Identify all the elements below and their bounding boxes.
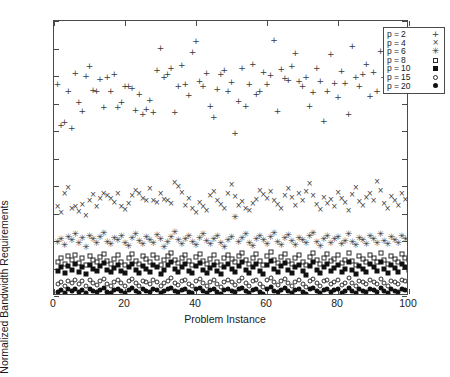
data-point-cross: ×	[306, 180, 313, 188]
data-point-open-circle	[350, 281, 355, 286]
data-point-cross: ×	[356, 198, 363, 206]
data-point-star: ✳	[121, 239, 129, 248]
data-point-filled-square	[392, 265, 397, 270]
data-point-open-circle	[204, 283, 209, 288]
data-point-star: ✳	[277, 241, 285, 250]
data-point-open-circle	[339, 283, 344, 288]
data-point-cross: ×	[93, 203, 100, 211]
data-point-plus: +	[366, 91, 374, 100]
data-point-star: ✳	[174, 236, 182, 245]
data-point-filled-square	[268, 259, 273, 264]
data-point-filled-square	[69, 267, 74, 272]
data-point-filled-circle	[94, 290, 99, 294]
data-point-open-circle	[112, 279, 117, 284]
data-point-open-square	[140, 254, 145, 259]
data-point-filled-square	[364, 269, 369, 274]
data-point-open-circle	[147, 282, 152, 287]
data-point-star: ✳	[203, 237, 211, 246]
data-point-plus: +	[363, 59, 371, 68]
data-point-cross: ×	[115, 190, 122, 198]
data-point-plus: +	[72, 69, 80, 78]
data-point-filled-circle	[286, 289, 291, 294]
data-point-filled-circle	[133, 288, 138, 293]
data-point-filled-square	[133, 268, 138, 273]
data-point-open-circle	[364, 282, 369, 287]
data-point-filled-circle	[76, 290, 81, 294]
data-point-filled-circle	[328, 289, 333, 294]
data-point-cross: ×	[146, 185, 153, 193]
data-point-filled-circle	[162, 289, 167, 294]
data-point-star: ✳	[167, 233, 175, 242]
data-point-star: ✳	[270, 229, 278, 238]
data-point-filled-circle	[144, 288, 149, 293]
data-point-open-square	[311, 251, 316, 256]
data-point-filled-square	[343, 267, 348, 272]
data-point-open-circle	[144, 280, 149, 285]
data-point-open-circle	[296, 278, 301, 283]
data-point-star: ✳	[235, 237, 243, 246]
data-point-cross: ×	[235, 202, 242, 210]
data-point-cross: ×	[118, 203, 125, 211]
data-point-cross: ×	[164, 197, 171, 205]
data-point-filled-circle	[339, 290, 344, 294]
x-tick-label: 40	[189, 298, 201, 309]
x-axis-label: Problem Instance	[0, 313, 450, 325]
data-point-filled-circle	[101, 286, 106, 291]
data-point-cross: ×	[97, 195, 104, 203]
data-point-open-square	[98, 254, 103, 259]
data-point-cross: ×	[342, 199, 349, 207]
data-point-open-circle	[87, 278, 92, 283]
data-point-filled-square	[279, 264, 284, 269]
data-point-cross: ×	[150, 197, 157, 205]
data-point-open-circle	[83, 284, 88, 289]
data-point-filled-circle	[314, 288, 319, 293]
data-point-open-square	[176, 261, 181, 266]
data-point-open-square	[169, 250, 174, 255]
data-point-filled-circle	[91, 288, 96, 293]
data-point-open-circle	[392, 280, 397, 285]
data-point-star: ✳	[75, 239, 83, 248]
data-point-filled-square	[151, 262, 156, 267]
data-point-filled-circle	[151, 286, 156, 291]
data-point-open-square	[119, 259, 124, 264]
data-point-open-circle	[236, 278, 241, 283]
data-point-plus: +	[75, 98, 83, 107]
data-point-open-square	[360, 257, 365, 262]
data-point-cross: ×	[90, 191, 97, 199]
data-point-filled-circle	[211, 286, 216, 291]
data-point-star: ✳	[192, 241, 200, 250]
data-point-filled-square	[382, 267, 387, 272]
data-point-plus: +	[206, 102, 214, 111]
data-point-filled-square	[247, 271, 252, 276]
data-point-filled-square	[304, 272, 309, 277]
data-point-filled-circle	[225, 286, 230, 291]
data-point-filled-circle	[375, 289, 380, 294]
data-point-filled-circle	[73, 286, 78, 291]
data-point-filled-square	[204, 270, 209, 275]
data-point-star: ✳	[295, 233, 303, 242]
data-point-open-square	[144, 257, 149, 262]
data-point-open-circle	[80, 279, 85, 284]
data-point-filled-circle	[208, 287, 213, 292]
data-point-cross: ×	[86, 197, 93, 205]
data-point-star: ✳	[82, 243, 90, 252]
data-point-filled-square	[357, 263, 362, 268]
data-point-cross: ×	[171, 179, 178, 187]
data-point-plus: +	[54, 80, 61, 89]
data-point-open-square	[247, 262, 252, 267]
data-point-star: ✳	[316, 241, 324, 250]
data-point-cross: ×	[132, 187, 139, 195]
data-point-star: ✳	[363, 239, 371, 248]
data-point-cross: ×	[260, 191, 267, 199]
data-point-cross: ×	[264, 195, 271, 203]
data-point-plus: +	[327, 50, 335, 59]
data-point-open-square	[218, 263, 223, 268]
data-point-star: ✳	[135, 237, 143, 246]
data-point-plus: +	[256, 87, 264, 96]
data-point-plus: +	[313, 64, 321, 73]
data-point-filled-circle	[364, 290, 369, 294]
data-point-star: ✳	[292, 240, 300, 249]
data-point-filled-square	[76, 269, 81, 274]
data-point-star: ✳	[178, 240, 186, 249]
data-point-open-circle	[69, 281, 74, 286]
